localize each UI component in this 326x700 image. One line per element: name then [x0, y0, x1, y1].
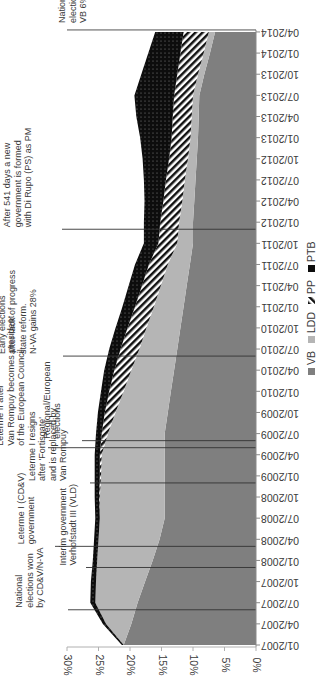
- y-tick-label: 20%: [125, 654, 137, 675]
- event-annotation: Interim governmentVerhofstadt III (VLD): [58, 484, 79, 566]
- x-tick-label: 01/2011: [261, 302, 298, 314]
- legend-label-ptb: PTB: [305, 242, 317, 262]
- x-tick-label: 04/2011: [261, 281, 298, 293]
- y-tick-label: 0%: [251, 657, 263, 672]
- legend-swatch-pp: [308, 297, 315, 304]
- svg-text:of the European Council: of the European Council: [16, 349, 26, 446]
- x-tick-label: 07/2008: [261, 513, 299, 525]
- event-annotation: Regional/Europeanelections: [42, 362, 63, 439]
- svg-text:Leterme I resigns: Leterme I resigns: [27, 411, 37, 481]
- area-layers: [90, 32, 256, 645]
- x-tick-label: 01/2009: [261, 471, 299, 483]
- legend-swatch-vb: [308, 368, 315, 375]
- svg-text:elections: elections: [52, 403, 62, 439]
- y-tick-label: 15%: [157, 654, 169, 675]
- event-annotation: Early electionsafter lack of progresssta…: [0, 270, 38, 355]
- chart-canvas: 01/200704/200707/200710/200701/200804/20…: [0, 0, 326, 700]
- svg-text:elections won: elections won: [25, 553, 35, 608]
- x-tick-label: 04/2008: [261, 535, 299, 547]
- svg-text:after lack of progress: after lack of progress: [7, 270, 17, 355]
- x-tick-label: 01/2007: [261, 640, 299, 652]
- x-tick-label: 04/2014: [261, 27, 299, 39]
- svg-text:Early elections: Early elections: [0, 295, 7, 354]
- x-tick-label: 01/2008: [261, 556, 299, 568]
- svg-text:state reform.: state reform.: [18, 304, 28, 355]
- event-annotation: Nationalelections wonby CD&V/N-VA: [14, 547, 45, 607]
- svg-text:elections. N-VA gains 33%,: elections. N-VA gains 33%,: [68, 0, 78, 23]
- x-tick-label: 10/2011: [261, 239, 298, 251]
- legend-label-vb: VB: [305, 351, 317, 365]
- y-tick-label: 10%: [188, 654, 200, 675]
- x-tick-label: 04/2010: [261, 365, 299, 377]
- x-tick-label: 01/2010: [261, 387, 299, 399]
- x-tick-label: 10/2012: [261, 154, 299, 166]
- x-tick-label: 07/2013: [261, 91, 299, 103]
- x-tick-label: 10/2008: [261, 492, 299, 504]
- x-tick-label: 01/2012: [261, 217, 299, 229]
- svg-text:Interim government: Interim government: [58, 487, 68, 565]
- x-tick-label: 01/2013: [261, 133, 299, 145]
- legend-label-pp: PP: [305, 280, 317, 294]
- svg-text:Leterme I (CD&V): Leterme I (CD&V): [16, 473, 26, 545]
- svg-text:government is formed: government is formed: [13, 140, 23, 227]
- svg-text:Verhofstadt III (VLD): Verhofstadt III (VLD): [68, 484, 78, 566]
- svg-text:National: National: [14, 575, 24, 608]
- svg-text:by CD&V/N-VA: by CD&V/N-VA: [35, 547, 45, 607]
- x-tick-label: 04/2009: [261, 450, 299, 462]
- y-tick-label: 25%: [94, 654, 106, 675]
- x-tick-label: 01/2014: [261, 48, 299, 60]
- x-tick-label: 04/2012: [261, 196, 299, 208]
- x-tick-label: 07/2010: [261, 344, 299, 356]
- x-tick-label: 10/2013: [261, 69, 299, 81]
- svg-text:government: government: [26, 496, 36, 544]
- svg-text:VB 6%, LDD 1%, PTB 5%, PP 4%: VB 6%, LDD 1%, PTB 5%, PP 4%: [78, 0, 88, 23]
- x-tick-label: 10/2009: [261, 408, 299, 420]
- annotations: Nationalelections wonby CD&V/N-VAInterim…: [0, 0, 88, 608]
- x-tick-label: 07/2011: [261, 260, 298, 272]
- x-tick-label: 04/2007: [261, 619, 299, 631]
- event-annotation: National/Regional/Europeanelections. N-V…: [57, 0, 88, 23]
- y-tick-label: 30%: [62, 654, 74, 675]
- svg-text:National/Regional/European: National/Regional/European: [57, 0, 67, 23]
- svg-text:N-VA gains 28%: N-VA gains 28%: [28, 289, 38, 354]
- legend: VBLDDPPPTB: [305, 242, 317, 375]
- stacked-area-chart: 01/200704/200707/200710/200701/200804/20…: [0, 0, 326, 700]
- legend-swatch-ptb: [308, 265, 315, 272]
- event-annotation: After 541 days a newgovernment is formed…: [2, 128, 33, 229]
- svg-text:with Di Rupo (PS) as PM: with Di Rupo (PS) as PM: [23, 128, 33, 229]
- svg-text:Leterme II after: Leterme II after: [0, 385, 5, 446]
- event-annotation: Leterme I (CD&V)government: [16, 473, 37, 545]
- x-tick-label: 10/2010: [261, 323, 299, 335]
- legend-label-ldd: LDD: [305, 312, 317, 333]
- x-tick-label: 10/2007: [261, 577, 299, 589]
- svg-text:Regional/European: Regional/European: [42, 362, 52, 439]
- svg-text:After 541 days a new: After 541 days a new: [2, 142, 12, 227]
- x-tick-label: 07/2009: [261, 429, 299, 441]
- x-tick-label: 07/2012: [261, 175, 299, 187]
- x-tick-label: 07/2007: [261, 598, 299, 610]
- y-tick-label: 5%: [220, 657, 232, 672]
- x-tick-label: 04/2013: [261, 112, 299, 124]
- legend-swatch-ldd: [308, 336, 315, 343]
